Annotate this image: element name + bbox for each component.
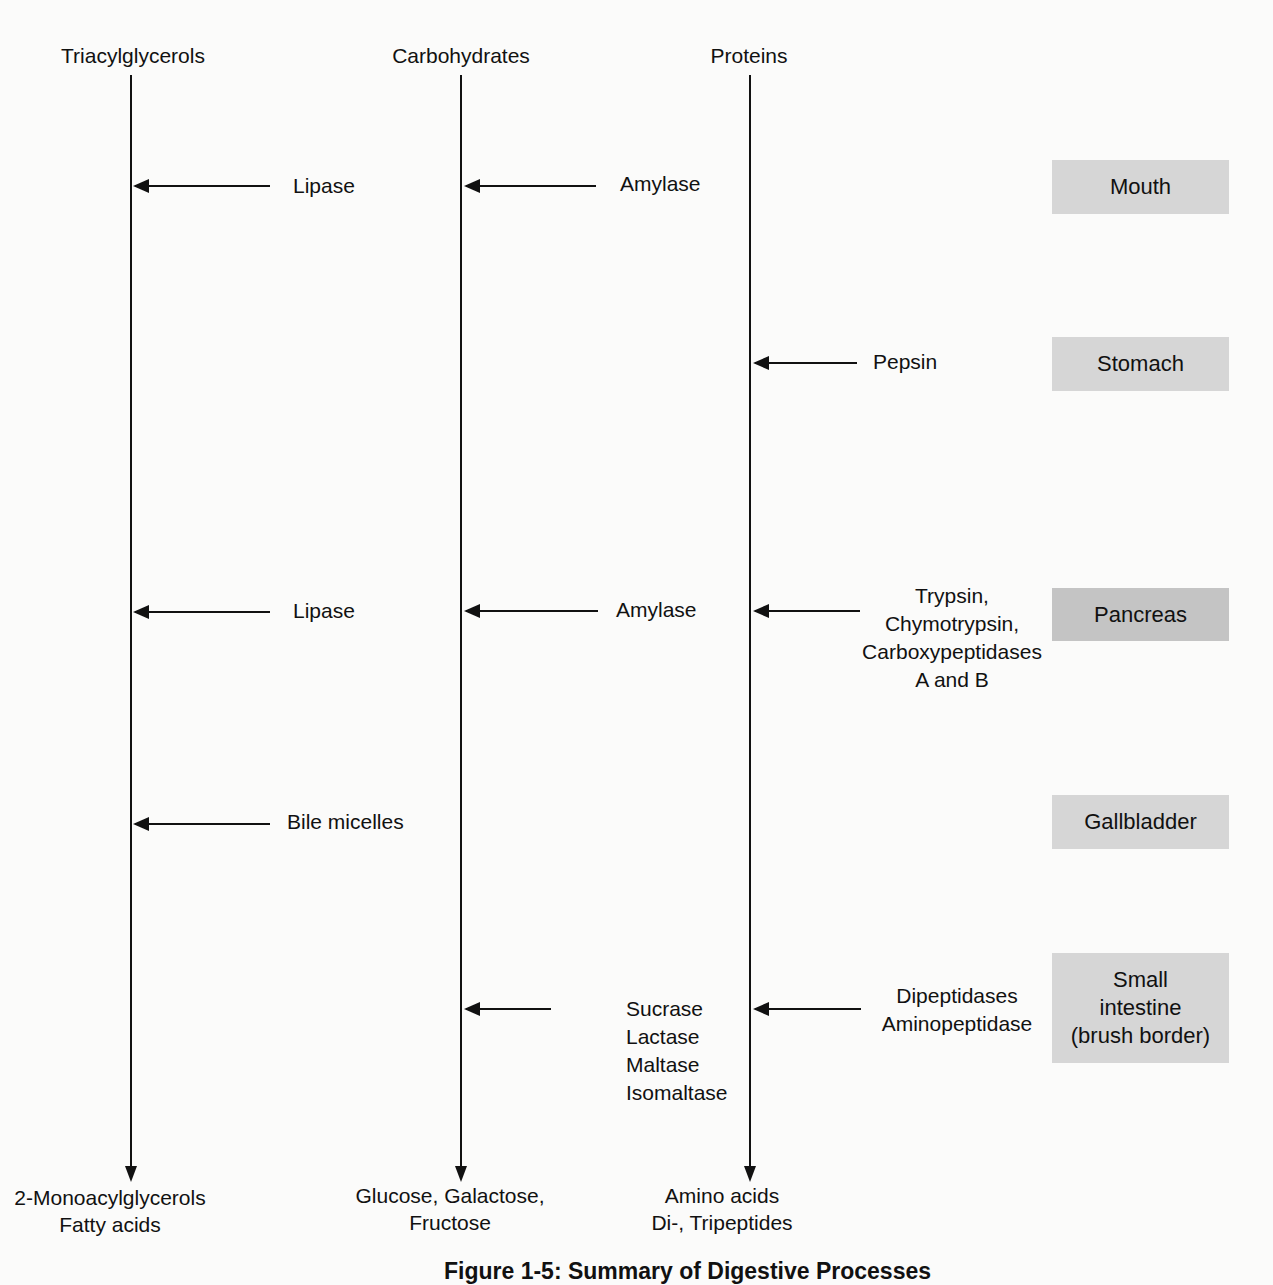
organ-mouth: Mouth bbox=[1052, 160, 1229, 214]
enzyme-pancreas-lipase: Lipase bbox=[293, 597, 355, 625]
arrow-left-icon bbox=[135, 823, 270, 825]
enzyme-aminopeptidase: Aminopeptidase bbox=[882, 1010, 1033, 1038]
arrow-left-icon bbox=[135, 611, 270, 613]
organ-label: Mouth bbox=[1110, 173, 1171, 201]
enzyme-pancreas-amylase: Amylase bbox=[616, 596, 697, 624]
organ-label: Stomach bbox=[1097, 350, 1184, 378]
enzyme-isomaltase: Isomaltase bbox=[626, 1079, 728, 1107]
enzyme-stomach-pepsin: Pepsin bbox=[873, 348, 937, 376]
enzyme-lactase: Lactase bbox=[626, 1023, 728, 1051]
organ-label: (brush border) bbox=[1071, 1022, 1210, 1050]
enzyme-small-intestine-carbohydrases: Sucrase Lactase Maltase Isomaltase bbox=[626, 995, 728, 1107]
arrow-down-icon bbox=[455, 1166, 467, 1182]
organ-pancreas: Pancreas bbox=[1052, 588, 1229, 641]
column-title-proteins: Proteins bbox=[710, 44, 787, 68]
arrow-left-icon bbox=[466, 185, 596, 187]
arrow-down-icon bbox=[744, 1166, 756, 1182]
enzyme-sucrase: Sucrase bbox=[626, 995, 728, 1023]
arrow-left-icon bbox=[755, 362, 857, 364]
product-carbohydrates: Glucose, Galactose, Fructose bbox=[355, 1182, 544, 1236]
enzyme-chymotrypsin: Chymotrypsin, bbox=[862, 610, 1042, 638]
product-fructose: Fructose bbox=[355, 1209, 544, 1236]
enzyme-mouth-lipase: Lipase bbox=[293, 172, 355, 200]
product-monosaccharides: Glucose, Galactose, bbox=[355, 1182, 544, 1209]
organ-small-intestine: Small intestine (brush border) bbox=[1052, 953, 1229, 1063]
figure-caption: Figure 1-5: Summary of Digestive Process… bbox=[444, 1258, 931, 1285]
organ-gallbladder: Gallbladder bbox=[1052, 795, 1229, 849]
organ-stomach: Stomach bbox=[1052, 337, 1229, 391]
product-amino-acids: Amino acids bbox=[651, 1182, 792, 1209]
arrow-down-icon bbox=[125, 1166, 137, 1182]
arrow-left-icon bbox=[466, 610, 598, 612]
enzyme-trypsin: Trypsin, bbox=[862, 582, 1042, 610]
product-lipids: 2-Monoacylglycerols Fatty acids bbox=[14, 1184, 205, 1238]
product-fatty-acids: Fatty acids bbox=[14, 1211, 205, 1238]
arrow-left-icon bbox=[755, 610, 860, 612]
enzyme-carboxypeptidases-types: A and B bbox=[862, 666, 1042, 694]
triacylglycerols-pathway-line bbox=[130, 75, 132, 1175]
enzyme-carboxypeptidases: Carboxypeptidases bbox=[862, 638, 1042, 666]
arrow-left-icon bbox=[135, 185, 270, 187]
product-monoacylglycerols: 2-Monoacylglycerols bbox=[14, 1184, 205, 1211]
enzyme-small-intestine-peptidases: Dipeptidases Aminopeptidase bbox=[882, 982, 1033, 1038]
product-peptides: Di-, Tripeptides bbox=[651, 1209, 792, 1236]
proteins-pathway-line bbox=[749, 75, 751, 1175]
organ-label: Gallbladder bbox=[1084, 808, 1197, 836]
enzyme-maltase: Maltase bbox=[626, 1051, 728, 1079]
carbohydrates-pathway-line bbox=[460, 75, 462, 1175]
organ-label: Small bbox=[1113, 966, 1168, 994]
enzyme-gallbladder-bile-micelles: Bile micelles bbox=[287, 808, 404, 836]
arrow-left-icon bbox=[755, 1008, 861, 1010]
organ-label: intestine bbox=[1100, 994, 1182, 1022]
enzyme-dipeptidases: Dipeptidases bbox=[882, 982, 1033, 1010]
enzyme-mouth-amylase: Amylase bbox=[620, 170, 701, 198]
enzyme-pancreas-proteases: Trypsin, Chymotrypsin, Carboxypeptidases… bbox=[862, 582, 1042, 694]
organ-label: Pancreas bbox=[1094, 601, 1187, 629]
product-proteins: Amino acids Di-, Tripeptides bbox=[651, 1182, 792, 1236]
column-title-carbohydrates: Carbohydrates bbox=[392, 44, 530, 68]
column-title-triacylglycerols: Triacylglycerols bbox=[61, 44, 205, 68]
arrow-left-icon bbox=[466, 1008, 551, 1010]
